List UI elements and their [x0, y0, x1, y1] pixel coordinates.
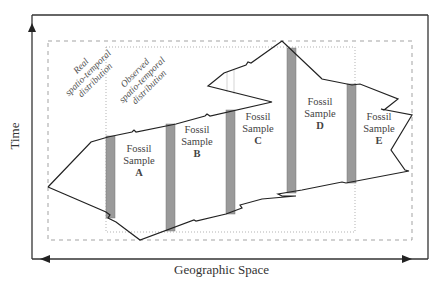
sample-label-a: Fossil Sample A	[116, 143, 162, 179]
y-axis-label: Time	[7, 123, 23, 150]
sample-e-line1: Fossil	[366, 111, 391, 122]
sample-bar-d	[287, 48, 296, 193]
time-axis-arrow-icon	[28, 23, 36, 32]
sample-bar-c	[226, 110, 235, 214]
sample-e-id: E	[356, 135, 402, 147]
sample-bar-a	[106, 136, 115, 218]
sample-bar-e	[347, 84, 356, 183]
sample-a-line1: Fossil	[126, 143, 151, 154]
sample-c-line2: Sample	[242, 123, 274, 134]
sample-label-c: Fossil Sample C	[235, 111, 281, 147]
sample-a-line2: Sample	[123, 155, 155, 166]
sample-b-line1: Fossil	[184, 124, 209, 135]
x-axis-label: Geographic Space	[0, 262, 443, 278]
sample-d-id: D	[297, 120, 343, 132]
sample-label-d: Fossil Sample D	[297, 96, 343, 132]
sample-label-b: Fossil Sample B	[174, 124, 220, 160]
sample-e-line2: Sample	[363, 123, 395, 134]
sample-a-id: A	[116, 167, 162, 179]
sample-c-line1: Fossil	[245, 111, 270, 122]
sample-label-e: Fossil Sample E	[356, 111, 402, 147]
sample-b-line2: Sample	[181, 136, 213, 147]
sample-d-line1: Fossil	[307, 96, 332, 107]
sample-b-id: B	[174, 148, 220, 160]
sample-c-id: C	[235, 135, 281, 147]
sample-d-line2: Sample	[304, 108, 336, 119]
